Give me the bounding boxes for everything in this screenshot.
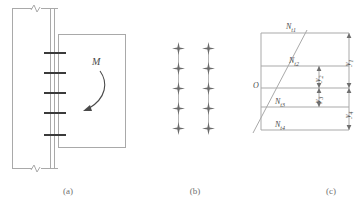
origin-label: O: [253, 81, 259, 90]
dim-arrow-y1-bottom: [347, 83, 352, 88]
dimension-label-y1: y1: [343, 59, 354, 66]
dim-base-y3: y: [313, 99, 322, 103]
dim-arrow-y3-top: [317, 88, 322, 93]
bolt-icon: [172, 42, 185, 55]
bolt-icon: [202, 102, 215, 115]
bolt-row: [44, 72, 66, 74]
panel-c-bolt-tension-distribution: O Nt1 Nt2 Nt3 Nt4 y2 y3 y1 y4 (c): [245, 0, 357, 175]
beam-right-edge: [125, 34, 126, 148]
dim-arrow-y2-bottom: [317, 83, 322, 88]
dim-arrow-y2-top: [317, 66, 322, 71]
caption-b: (b): [175, 186, 215, 196]
beam-top-edge: [58, 34, 125, 35]
bolt-icon: [202, 122, 215, 135]
bolt-icon: [172, 62, 185, 75]
force-label-nt2: Nt2: [289, 56, 299, 67]
dim-arrow-y4-top: [347, 88, 352, 93]
end-plate-line: [58, 34, 59, 147]
moment-label: M: [92, 56, 100, 67]
dim-sub-y4: 4: [348, 111, 354, 114]
bolt-row: [44, 52, 66, 54]
dim-base-y2: y: [313, 78, 322, 82]
column-web-line-left: [50, 8, 51, 168]
break-mark-top-icon: [30, 2, 44, 14]
dimension-label-y3: y3: [313, 96, 324, 103]
dim-sub-y1: 1: [348, 59, 354, 62]
dimension-label-y2: y2: [313, 75, 324, 82]
caption-a: (a): [48, 186, 88, 196]
force-label-nt3: Nt3: [275, 97, 285, 108]
dimension-label-y4: y4: [343, 111, 354, 118]
moment-arrow-icon: [78, 68, 110, 116]
column-bottom-edge: [12, 168, 32, 169]
force-sub-nt4: t4: [280, 125, 285, 131]
tension-distribution-svg: [245, 0, 357, 175]
dim-arrow-y4-bottom: [347, 125, 352, 130]
dim-sub-y3: 3: [318, 96, 324, 99]
break-mark-bottom-icon: [30, 162, 44, 174]
bolt-row: [44, 112, 66, 114]
bolt-icon: [172, 82, 185, 95]
bolt-icon: [202, 62, 215, 75]
engineering-figure: M (a): [0, 0, 357, 207]
column-left-edge: [12, 8, 13, 168]
bolt-icon: [172, 122, 185, 135]
bolt-icon: [202, 82, 215, 95]
dim-arrow-y1-top: [347, 33, 352, 38]
panel-b-bolt-group-layout: (b): [150, 0, 245, 175]
dim-base-y4: y: [343, 114, 352, 118]
beam-bottom-edge: [58, 147, 125, 148]
caption-c: (c): [311, 186, 351, 196]
panel-a-connection-elevation: M (a): [0, 0, 140, 175]
force-sub-nt1: t1: [291, 27, 296, 33]
force-sub-nt3: t3: [280, 102, 285, 108]
force-label-nt1: Nt1: [286, 22, 296, 33]
bolt-row: [44, 134, 66, 136]
dim-sub-y2: 2: [318, 75, 324, 78]
bolt-icon: [202, 42, 215, 55]
bolt-row: [44, 92, 66, 94]
force-sub-nt2: t2: [294, 61, 299, 67]
dim-base-y1: y: [343, 62, 352, 66]
force-label-nt4: Nt4: [275, 120, 285, 131]
column-web-line-right: [54, 8, 55, 168]
column-top-edge: [12, 8, 32, 9]
bolt-icon: [172, 102, 185, 115]
